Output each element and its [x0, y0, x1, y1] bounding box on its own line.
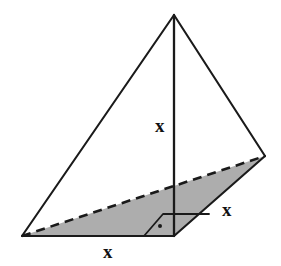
- lateral-edge-apex-to-base-right: [174, 15, 265, 156]
- pyramid-diagram-svg: [0, 0, 281, 266]
- altitude-length-label: x: [155, 116, 165, 135]
- front-base-edge-label: x: [103, 242, 113, 261]
- right-angle-dot-icon: [158, 224, 162, 228]
- slant-base-edge-label: x: [222, 200, 232, 219]
- geometry-figure: x x x: [0, 0, 281, 266]
